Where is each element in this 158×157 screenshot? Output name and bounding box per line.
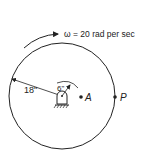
rotating-disk-diagram: ω = 20 rad per sec 18" 6" A P xyxy=(0,0,158,157)
outer-radius-label: 18" xyxy=(24,85,37,95)
point-a-label: A xyxy=(84,92,92,103)
inner-radius-label: 6" xyxy=(57,84,64,93)
omega-label: ω = 20 rad per sec xyxy=(64,29,135,39)
point-p-dot xyxy=(113,95,117,99)
point-p-label: P xyxy=(120,92,127,103)
point-a-dot xyxy=(79,95,83,99)
rotation-arrow-icon xyxy=(24,34,58,48)
